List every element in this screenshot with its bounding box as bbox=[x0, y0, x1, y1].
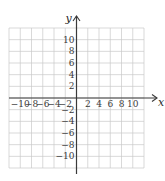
y-tick-label: −4 bbox=[61, 116, 75, 126]
x-axis-title: x bbox=[158, 96, 165, 109]
y-tick-label: 8 bbox=[69, 46, 75, 56]
x-tick-label: 8 bbox=[119, 99, 125, 109]
y-tick-label: −10 bbox=[56, 151, 75, 161]
x-tick-label: 10 bbox=[127, 99, 139, 109]
x-tick-label: 4 bbox=[96, 99, 102, 109]
y-tick-label: 10 bbox=[63, 35, 75, 45]
y-axis-title: y bbox=[65, 12, 73, 25]
y-tick-label: 4 bbox=[69, 70, 75, 80]
coordinate-plane: x y −10−8−6−4−2246810108642−2−4−6−8−10 bbox=[0, 0, 165, 181]
y-tick-label: 6 bbox=[69, 58, 75, 68]
y-tick-label: −2 bbox=[61, 105, 74, 115]
x-tick-label: 2 bbox=[85, 99, 91, 109]
x-tick-label: 6 bbox=[107, 99, 113, 109]
y-tick-label: 2 bbox=[69, 81, 75, 91]
y-tick-label: −6 bbox=[61, 128, 75, 138]
axes: x y bbox=[9, 12, 165, 174]
y-tick-label: −8 bbox=[61, 140, 75, 150]
